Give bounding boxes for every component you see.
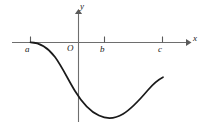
graph-figure: y x O a b c [0,0,206,127]
origin-label: O [67,44,74,53]
x-tick-label-c: c [158,45,162,54]
x-tick-label-a: a [25,45,30,54]
graph-canvas [0,0,206,127]
function-curve [31,42,164,118]
x-axis-arrowhead [186,39,192,46]
x-tick-label-b: b [100,45,105,54]
y-axis-label: y [80,2,84,11]
x-axis-label: x [193,34,197,43]
